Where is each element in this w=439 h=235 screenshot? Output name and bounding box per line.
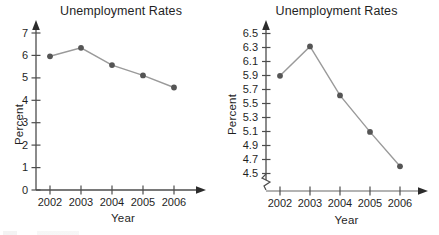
left-data-point-2005 [140,73,146,79]
left-y-axis-title: Percent [13,104,25,145]
right-ytick-label-5-9: 5.9 [226,69,258,81]
left-ytick-label-7: 7 [4,27,28,39]
left-data-point-2003 [78,45,84,51]
right-ytick-label-6-1: 6.1 [226,55,258,67]
left-ytick-label-0: 0 [4,184,28,196]
two-chart-figure: Unemployment Rates [0,0,439,235]
right-y-axis-arrow-icon [262,20,270,30]
right-ytick-label-4-5: 4.5 [226,167,258,179]
left-y-axis-arrow-icon [32,20,40,30]
right-data-markers [277,44,403,170]
right-y-axis-title: Percent [226,94,238,135]
right-ytick-label-6-3: 6.3 [226,41,258,53]
chart-panel-left: Unemployment Rates [0,0,218,235]
right-data-point-2006 [397,163,403,169]
left-data-point-2006 [171,85,177,91]
right-data-point-2002 [277,73,283,79]
right-ytick-label-4-9: 4.9 [226,139,258,151]
left-ytick-label-1: 1 [4,161,28,173]
right-xtick-label-2006: 2006 [379,197,421,209]
right-data-line [280,46,400,166]
left-ytick-label-6: 6 [4,49,28,61]
left-x-axis-title: Year [0,212,232,224]
right-x-axis-arrow-icon [418,187,428,195]
left-ytick-label-5: 5 [4,71,28,83]
left-data-point-2002 [47,53,53,59]
right-data-point-2003 [307,44,313,50]
right-x-axis-title: Year [218,214,439,226]
page-edge-artifact [3,231,123,235]
left-x-axis-arrow-icon [196,186,206,194]
right-data-point-2004 [337,93,343,99]
left-xtick-label-2006: 2006 [153,196,195,208]
right-ytick-label-6-5: 6.5 [226,27,258,39]
left-data-point-2004 [109,62,115,68]
right-data-point-2005 [367,129,373,135]
right-ytick-label-4-7: 4.7 [226,153,258,165]
chart-panel-right: Unemployment Rates [218,0,439,235]
